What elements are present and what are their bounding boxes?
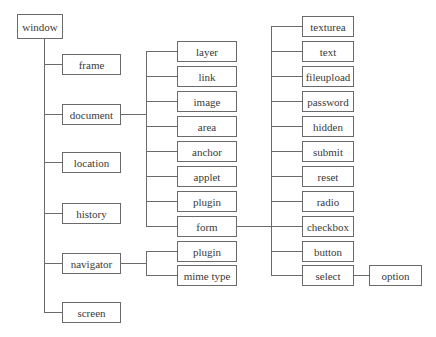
connector-screen [44, 312, 62, 313]
node-navigator: navigator [62, 253, 121, 274]
node-mime-type: mime type [177, 265, 237, 286]
node-layer: layer [177, 41, 237, 62]
connector-plugin [146, 201, 177, 202]
node-texturea: texturea [302, 16, 354, 37]
node-anchor: anchor [177, 141, 237, 162]
node-hidden: hidden [302, 116, 354, 137]
connector-navigator [44, 263, 62, 264]
root-trunk-line [44, 38, 45, 312]
node-area: area [177, 116, 237, 137]
connector-frame [44, 64, 62, 65]
node-form: form [177, 216, 237, 237]
node-frame: frame [62, 54, 121, 75]
node-password: password [302, 91, 354, 112]
connector-nav-plugin [146, 251, 177, 252]
connector-password [271, 101, 302, 102]
connector-link [146, 76, 177, 77]
node-applet: applet [177, 166, 237, 187]
connector-checkbox [271, 226, 302, 227]
connector-anchor [146, 151, 177, 152]
connector-select [271, 275, 302, 276]
node-radio: radio [302, 191, 354, 212]
node-button: button [302, 241, 354, 262]
connector-mime-type [146, 275, 177, 276]
connector-form [146, 226, 177, 227]
connector-submit [271, 151, 302, 152]
node-select: select [302, 265, 354, 286]
node-submit: submit [302, 141, 354, 162]
connector-image [146, 101, 177, 102]
node-link: link [177, 66, 237, 87]
node-plugin: plugin [177, 191, 237, 212]
node-option: option [369, 265, 422, 286]
connector-option [353, 275, 369, 276]
connector-texturea [271, 26, 302, 27]
node-location: location [62, 152, 121, 173]
connector-location [44, 162, 62, 163]
navigator-out-line [120, 263, 146, 264]
node-image: image [177, 91, 237, 112]
node-screen: screen [62, 302, 121, 323]
node-checkbox: checkbox [302, 216, 354, 237]
connector-document [44, 114, 62, 115]
connector-reset [271, 176, 302, 177]
node-reset: reset [302, 166, 354, 187]
connector-radio [271, 201, 302, 202]
node-window: window [17, 14, 63, 39]
connector-hidden [271, 126, 302, 127]
connector-history [44, 213, 62, 214]
form-out-line [236, 226, 271, 227]
node-document: document [62, 104, 121, 125]
connector-layer [146, 51, 177, 52]
connector-text [271, 51, 302, 52]
document-out-line [120, 114, 146, 115]
connector-applet [146, 176, 177, 177]
object-hierarchy-diagram: window frame document location history n… [0, 0, 436, 337]
connector-fileupload [271, 76, 302, 77]
connector-area [146, 126, 177, 127]
node-navigator-plugin: plugin [177, 241, 237, 262]
connector-button [271, 251, 302, 252]
node-text: text [302, 41, 354, 62]
navigator-trunk-line [146, 251, 147, 276]
node-fileupload: fileupload [302, 66, 354, 87]
node-history: history [62, 203, 121, 224]
